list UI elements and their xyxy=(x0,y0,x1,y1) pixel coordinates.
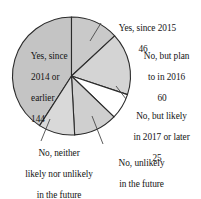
label-no-neither-future-line2: likely nor unlikely xyxy=(25,169,93,179)
label-no-neither-future-line3: in the future xyxy=(37,190,82,199)
label-yes-2014-line3: earlier xyxy=(31,93,54,103)
label-yes-2014-line2: 2014 or xyxy=(31,72,59,82)
label-yes-2015-line1: Yes, since 2015 xyxy=(119,23,176,33)
label-yes-2014-line1: Yes, since xyxy=(31,51,68,61)
label-yes-2014-value: 144 xyxy=(31,114,45,124)
pie-chart: Yes, since 2015 46 No, but plan to in 20… xyxy=(0,0,201,199)
label-no-unlikely-future-line1: No, unlikely xyxy=(119,158,165,168)
label-yes-2014-or-earlier: Yes, since 2014 or earlier 144 xyxy=(22,41,84,135)
label-no-likely-2017-line1: No, but likely xyxy=(136,111,187,121)
label-no-neither-future: No, neither likely nor unlikely in the f… xyxy=(7,138,102,199)
label-no-neither-future-line1: No, neither xyxy=(38,148,79,158)
label-no-unlikely-future-line2: in the future xyxy=(119,179,164,189)
label-no-plan-2016-line2: to in 2016 xyxy=(148,72,185,82)
label-no-plan-2016-line1: No, but plan xyxy=(144,51,190,61)
label-no-unlikely-future: No, unlikely in the future 42 xyxy=(101,148,173,199)
label-no-likely-2017-line2: in 2017 or later xyxy=(133,132,189,142)
